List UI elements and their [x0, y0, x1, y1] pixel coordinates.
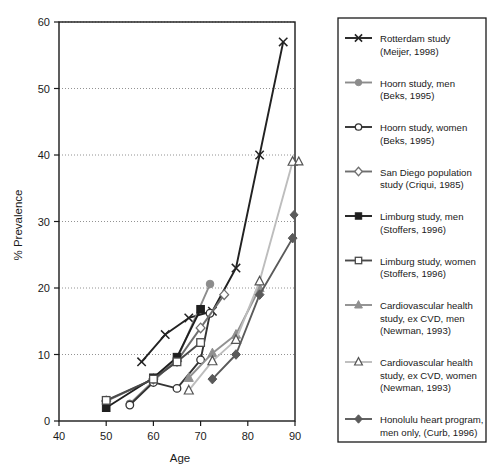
ytick-label-10: 10: [38, 349, 50, 361]
marker-open-square: [355, 257, 361, 263]
ytick-label-40: 40: [38, 149, 50, 161]
marker-open-circle: [173, 385, 181, 393]
marker-open-square: [150, 375, 158, 383]
legend-label-line: Cardiovascular health: [380, 300, 473, 311]
legend-label-line: Hoorn study, men: [380, 78, 455, 89]
marker-filled-circle: [355, 79, 361, 85]
marker-open-circle: [126, 401, 134, 409]
marker-filled-square: [197, 305, 205, 313]
marker-open-square: [197, 339, 205, 347]
marker-filled-square: [102, 404, 110, 412]
legend-label-line: Limburg study, women: [380, 256, 476, 267]
chart-background: [0, 0, 490, 469]
legend-label-line: (Newman, 1993): [380, 382, 451, 393]
xtick-label-50: 50: [100, 430, 112, 442]
legend-label-line: (Newman, 1993): [380, 325, 451, 336]
legend-label-line: Limburg study, men: [380, 211, 464, 222]
xtick-label-90: 90: [289, 430, 301, 442]
marker-open-square: [102, 397, 110, 405]
legend-label-line: study, ex CVD, women: [380, 370, 477, 381]
ytick-label-60: 60: [38, 16, 50, 28]
legend-label-line: (Beks, 1995): [380, 135, 434, 146]
legend-label-line: (Stoffers, 1996): [380, 224, 446, 235]
legend-label-line: men only, (Curb, 1996): [380, 427, 477, 438]
chart-svg: 0102030405060405060708090 % Prevalence A…: [0, 0, 490, 469]
ytick-label-50: 50: [38, 83, 50, 95]
xtick-label-40: 40: [53, 430, 65, 442]
legend-label-line: (Beks, 1995): [380, 90, 434, 101]
legend-label-line: Hoorn study, women: [380, 122, 467, 133]
ytick-label-20: 20: [38, 282, 50, 294]
legend-label-line: study (Criqui, 1985): [380, 179, 464, 190]
xtick-label-60: 60: [147, 430, 159, 442]
legend-label-line: Cardiovascular health: [380, 357, 473, 368]
y-axis-title: % Prevalence: [12, 190, 24, 261]
ytick-label-30: 30: [38, 216, 50, 228]
marker-open-circle: [355, 124, 361, 130]
legend-label-line: Rotterdam study: [380, 33, 451, 44]
marker-filled-square: [355, 213, 361, 219]
legend-label-line: Honolulu heart program,: [380, 414, 483, 425]
legend-label-line: study, ex CVD, men: [380, 313, 465, 324]
prevalence-age-chart: 0102030405060405060708090 % Prevalence A…: [0, 0, 490, 469]
legend-label-line: (Meijer, 1998): [380, 46, 439, 57]
marker-open-square: [173, 358, 181, 366]
xtick-label-80: 80: [242, 430, 254, 442]
x-axis-title: Age: [170, 452, 190, 464]
xtick-label-70: 70: [194, 430, 206, 442]
ytick-label-0: 0: [44, 415, 50, 427]
legend-label-line: San Diego population: [380, 167, 472, 178]
legend-label-line: (Stoffers, 1996): [380, 268, 446, 279]
marker-filled-circle: [206, 280, 214, 288]
